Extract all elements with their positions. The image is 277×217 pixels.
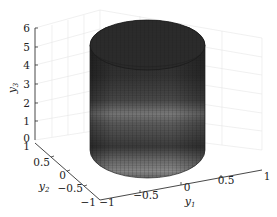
y2-tick-1: 1 bbox=[23, 140, 30, 152]
z-axis-label: y3 bbox=[6, 82, 20, 94]
surface-plot: 6 5 4 3 2 1 0 y3 1 0.5 0 −0.5 −1 y2 −1 bbox=[0, 0, 277, 217]
z-tick-1: 1 bbox=[23, 115, 30, 127]
z-tick-6: 6 bbox=[23, 22, 30, 34]
z-tick-3: 3 bbox=[23, 78, 30, 90]
z-tick-5: 5 bbox=[23, 41, 30, 53]
cylinder-surface bbox=[88, 18, 208, 183]
y2-tick--0.5: −0.5 bbox=[58, 182, 84, 194]
y2-axis: 1 0.5 0 −0.5 −1 y2 bbox=[23, 140, 100, 208]
y2-tick--1: −1 bbox=[81, 196, 96, 208]
y2-tick-0: 0 bbox=[59, 169, 66, 181]
y1-tick-0.5: 0.5 bbox=[218, 174, 235, 186]
y2-axis-label: y2 bbox=[38, 180, 50, 194]
z-tick-2: 2 bbox=[23, 97, 30, 109]
y1-tick-1: 1 bbox=[264, 170, 271, 182]
y1-tick-0: 0 bbox=[184, 181, 191, 193]
y1-axis-label: y1 bbox=[184, 195, 196, 209]
y1-tick--0.5: −0.5 bbox=[133, 189, 159, 201]
svg-text:y3: y3 bbox=[6, 82, 20, 94]
y2-tick-0.5: 0.5 bbox=[33, 156, 50, 168]
z-tick-4: 4 bbox=[23, 59, 30, 71]
y1-tick--1: −1 bbox=[99, 196, 114, 208]
z-axis: 6 5 4 3 2 1 0 y3 bbox=[6, 22, 38, 144]
